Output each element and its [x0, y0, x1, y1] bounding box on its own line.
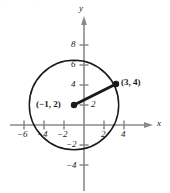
y-tick-label-6: 6: [71, 60, 76, 69]
x-tick-label-minus2: −2: [57, 130, 68, 139]
center-point-marker: [71, 102, 77, 108]
x-tick-label-minus4: −4: [37, 130, 48, 139]
center-point-label: (−1, 2): [36, 100, 61, 109]
y-tick-label-4: 4: [71, 80, 76, 89]
x-axis: [10, 122, 153, 128]
y-tick-label-minus4: −4: [66, 161, 77, 170]
y-tick-label-minus2: −2: [66, 140, 77, 149]
y-tick-label-2: 2: [91, 100, 96, 109]
x-tick-label-4: 4: [121, 130, 126, 139]
x-tick-label-minus6: −6: [17, 130, 28, 139]
x-axis-label: x: [157, 119, 161, 128]
y-axis-label: y: [79, 4, 83, 13]
y-tick-label-8: 8: [71, 40, 76, 49]
circle-point-marker: [113, 81, 119, 87]
graph-figure: · ·: [0, 0, 170, 193]
coordinate-plane: [0, 0, 170, 193]
circle-point-label: (3, 4): [121, 78, 141, 87]
x-tick-label-2: 2: [101, 130, 106, 139]
